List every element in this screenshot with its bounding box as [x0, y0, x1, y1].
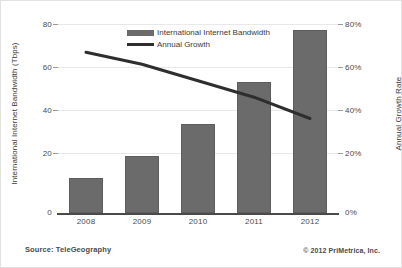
annual-growth-line[interactable] [58, 24, 338, 213]
y-axis-tick-label: 40 [18, 106, 52, 115]
legend-item-bandwidth[interactable]: International Internet Bandwidth [127, 28, 270, 37]
copyright-note: © 2012 PriMetrica, Inc. [303, 247, 380, 254]
chart-legend: International Internet Bandwidth Annual … [127, 28, 270, 52]
y2-axis-tick [338, 153, 343, 154]
y2-axis-tick [338, 24, 343, 25]
bar-swatch-icon [127, 30, 154, 36]
y2-axis-tick [338, 67, 343, 68]
y2-axis-tick-label: 80% [345, 20, 379, 29]
chart-figure: 80 60 40 20 0 80% 60% 40% 20% 0% Interna… [0, 0, 402, 268]
y2-axis-tick-label: 60% [345, 63, 379, 72]
y-axis-tick-label: 60 [18, 63, 52, 72]
y-axis-tick-label: 20 [18, 149, 52, 158]
y2-axis-tick-label: 0% [345, 208, 379, 217]
x-axis-line [57, 213, 339, 215]
plot-area [58, 24, 338, 213]
x-axis-tick-label: 2012 [282, 217, 338, 226]
y2-axis-title: Annual Growth Rate [394, 21, 402, 207]
y2-axis-tick-label: 40% [345, 106, 379, 115]
y-axis-tick-label: 0 [18, 208, 52, 217]
x-axis-tick-label: 2010 [170, 217, 226, 226]
y2-axis-tick [338, 110, 343, 111]
x-axis-tick-label: 2009 [114, 217, 170, 226]
x-axis-tick-label: 2011 [226, 217, 282, 226]
legend-label: Annual Growth [157, 40, 210, 49]
legend-item-growth[interactable]: Annual Growth [127, 40, 270, 49]
line-swatch-icon [127, 43, 154, 46]
source-note: Source: TeleGeography [25, 245, 111, 254]
x-axis-tick-label: 2008 [58, 217, 114, 226]
y2-axis-tick-label: 20% [345, 149, 379, 158]
legend-label: International Internet Bandwidth [157, 28, 270, 37]
y-axis-tick-label: 80 [18, 20, 52, 29]
y-axis-title: International Internet Bandwidth (Tbps) [10, 21, 19, 207]
